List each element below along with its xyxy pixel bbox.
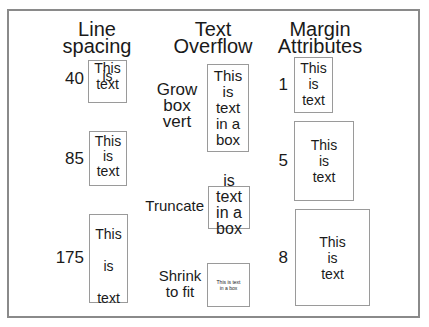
margin-text-5: This is text [294, 137, 354, 185]
heading-text-overflow-line2: Overflow [163, 38, 263, 55]
overflow-text-shrink: This is text in a box [207, 279, 250, 291]
margin-value-8: 8 [270, 250, 288, 266]
overflow-text-truncate: is text in a box [208, 173, 250, 237]
heading-margin-attributes: Margin Attributes [270, 21, 370, 55]
heading-margin-attributes-line2: Attributes [270, 38, 370, 55]
heading-line-spacing-line2: spacing [52, 38, 142, 55]
overflow-label-shrink: Shrink to fit [155, 268, 205, 300]
heading-line-spacing: Line spacing [52, 21, 142, 55]
margin-text-8: This is text [295, 234, 370, 282]
line-spacing-value-40: 40 [50, 71, 84, 87]
margin-text-1: This is text [294, 60, 333, 108]
overflow-label-truncate: Truncate [140, 198, 204, 214]
line-spacing-value-175: 175 [45, 250, 84, 266]
line-spacing-text-40: This is text [88, 64, 127, 88]
heading-text-overflow: Text Overflow [163, 21, 263, 55]
margin-value-5: 5 [270, 153, 288, 169]
line-spacing-text-175: This is text [89, 218, 128, 314]
overflow-text-grow: This is text in a box [207, 68, 249, 148]
overflow-label-grow: Grow box vert [150, 82, 204, 130]
line-spacing-value-85: 85 [50, 151, 84, 167]
line-spacing-text-85: This is text [89, 134, 127, 179]
margin-value-1: 1 [270, 77, 288, 93]
